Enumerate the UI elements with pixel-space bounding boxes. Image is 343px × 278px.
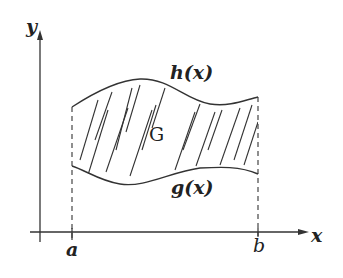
y-axis <box>37 30 43 242</box>
region-diagram: y x a b h(x) g(x) G <box>0 0 343 278</box>
x-axis-arrow-icon <box>298 229 309 235</box>
bound-label-b: b <box>253 236 265 255</box>
x-axis-label: x <box>311 226 322 245</box>
lower-curve-label: g(x) <box>171 178 214 197</box>
diagram-canvas <box>0 0 343 278</box>
y-axis-label: y <box>26 17 37 36</box>
region-hatching <box>80 85 258 176</box>
bound-label-a: a <box>66 240 78 259</box>
y-axis-arrow-icon <box>37 30 43 40</box>
upper-curve-label: h(x) <box>170 63 213 82</box>
curve-g <box>72 166 258 185</box>
curve-h <box>72 79 258 107</box>
region-label: G <box>149 125 164 144</box>
